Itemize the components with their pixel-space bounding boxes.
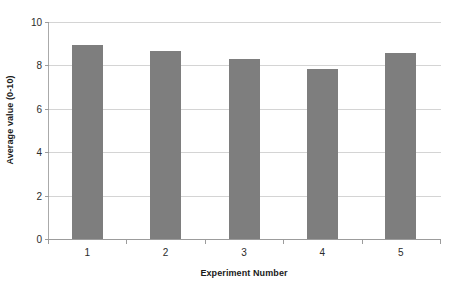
x-tick-mark <box>362 239 363 244</box>
x-tick-label: 2 <box>163 247 169 258</box>
x-tick-mark <box>48 239 49 244</box>
bar <box>307 69 338 239</box>
bars-layer <box>48 22 440 239</box>
bar <box>385 53 416 239</box>
y-tick-label: 0 <box>36 234 42 245</box>
bar <box>72 45 103 239</box>
bar-chart: Average value (0-10) 0246810 12345 Exper… <box>0 0 451 293</box>
y-tick-label: 2 <box>36 190 42 201</box>
x-tick-mark <box>283 239 284 244</box>
x-tick-label: 1 <box>84 247 90 258</box>
x-tick-label: 3 <box>241 247 247 258</box>
y-axis-tick-labels: 0246810 <box>20 22 46 239</box>
x-axis: 12345 <box>48 239 440 269</box>
x-tick-mark <box>126 239 127 244</box>
y-tick-label: 10 <box>31 17 42 28</box>
y-tick-label: 8 <box>36 60 42 71</box>
bar <box>150 51 181 239</box>
x-tick-mark <box>440 239 441 244</box>
y-tick-label: 4 <box>36 147 42 158</box>
y-tick-label: 6 <box>36 103 42 114</box>
y-axis-title-label: Average value (0-10) <box>5 75 15 164</box>
x-tick-mark <box>205 239 206 244</box>
x-tick-label: 4 <box>320 247 326 258</box>
y-axis-title: Average value (0-10) <box>0 0 20 240</box>
x-axis-title: Experiment Number <box>48 268 440 278</box>
x-tick-label: 5 <box>398 247 404 258</box>
bar <box>229 59 260 239</box>
